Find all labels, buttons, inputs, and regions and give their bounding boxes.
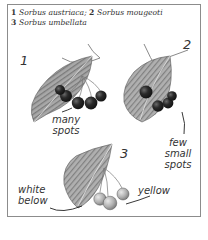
berry	[167, 91, 177, 101]
berry	[85, 97, 98, 110]
figure-3-sorbus-umbellata	[50, 144, 150, 211]
label-yellow: yellow	[138, 185, 178, 196]
berry	[117, 188, 129, 200]
pointer-line	[62, 108, 72, 112]
berry	[72, 97, 84, 109]
figure-1-sorbus-austriaca	[31, 44, 106, 122]
berry	[55, 85, 65, 95]
label-line: few	[158, 137, 198, 148]
label-line: white	[18, 184, 58, 195]
figure-number-3: 3	[120, 146, 128, 161]
label-line: below	[18, 195, 58, 206]
label-line: yellow	[138, 185, 178, 196]
label-line: many	[46, 114, 86, 125]
berry	[95, 90, 106, 101]
label-line: spots	[46, 125, 86, 136]
label-white-below: white below	[18, 184, 58, 206]
label-line: small	[158, 148, 198, 159]
berry	[140, 86, 153, 99]
pointer-line	[182, 112, 185, 134]
berry	[103, 196, 117, 210]
figure-number-2: 2	[183, 37, 191, 52]
figure-2-sorbus-mougeoti	[124, 44, 188, 134]
label-many-spots: many spots	[46, 114, 86, 136]
berry	[152, 100, 164, 112]
pointer-line-right	[126, 196, 150, 204]
label-few-small-spots: few small spots	[158, 137, 198, 170]
figure-number-1: 1	[20, 53, 28, 68]
label-line: spots	[158, 159, 198, 170]
